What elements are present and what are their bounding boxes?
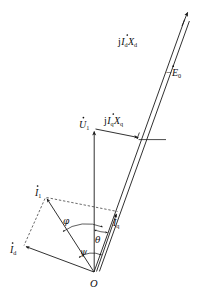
svg-text:jIdXd: jIdXd	[117, 36, 138, 48]
reactance-drop-d-arrowhead	[137, 133, 139, 140]
label-Iq-sub: q	[116, 222, 119, 229]
label-origin: O	[90, 278, 98, 289]
label-jIdXd-X-sub: d	[134, 41, 138, 48]
label-current-Iq: Iq	[112, 215, 119, 229]
label-I1-sub: 1	[38, 192, 41, 199]
reactance-drop-d-vector	[137, 133, 166, 140]
emf-vector-right-edge	[99, 21, 189, 271]
label-E0-overdot	[172, 65, 174, 67]
reactance-drop-q-shaft	[96, 129, 138, 137]
emf-vector-arrowhead	[182, 12, 188, 26]
dashed-I1-to-Id	[24, 199, 45, 246]
svg-text:U1: U1	[79, 119, 89, 131]
current-vector-I1-shaft	[47, 199, 94, 272]
label-current-I1: I1	[34, 185, 41, 199]
label-jIdXd-overdot	[126, 34, 128, 36]
label-Id-overdot	[12, 242, 14, 244]
current-vector-I1	[47, 199, 94, 272]
label-Iq-overdot	[115, 215, 117, 217]
label-U1-overdot	[83, 117, 85, 119]
label-angle-theta: θ	[95, 235, 101, 245]
label-Id-sub: d	[13, 249, 17, 256]
angle-arc-theta	[95, 230, 108, 233]
label-E0-sub: 0	[178, 72, 181, 79]
label-U1-sub: 1	[86, 124, 89, 131]
label-angle-phi: φ	[63, 216, 70, 226]
label-reactance-drop-q: jIqXq	[103, 113, 123, 127]
label-E0-symbol: E	[171, 67, 178, 78]
label-reactance-drop-d: jIdXd	[117, 34, 138, 48]
label-emf-E0: −E0	[166, 65, 181, 79]
phasor-diagram-canvas: jIdXd −E0 jIqXq U1 I	[0, 0, 204, 294]
label-angle-psi: ψ	[80, 247, 88, 257]
svg-text:jIqXq: jIqXq	[103, 115, 123, 127]
construction-dashed-lines	[24, 198, 118, 246]
svg-text:Id: Id	[9, 244, 17, 256]
label-jIqXq-overdot	[112, 113, 114, 115]
svg-text:−E0: −E0	[166, 67, 181, 79]
label-jIqXq-X-sub: q	[120, 120, 123, 127]
emf-vector-left-edge	[94, 20, 185, 272]
dashed-I1-to-Iq	[47, 198, 118, 212]
svg-text:I1: I1	[34, 187, 41, 199]
phasor-diagram-figure: jIdXd −E0 jIqXq U1 I	[0, 0, 204, 294]
reactance-drop-q-vector	[96, 129, 138, 137]
label-I1-overdot	[37, 185, 39, 187]
emf-vector-E0	[94, 12, 189, 272]
label-current-Id: Id	[9, 242, 17, 256]
label-voltage-U1: U1	[79, 117, 89, 131]
